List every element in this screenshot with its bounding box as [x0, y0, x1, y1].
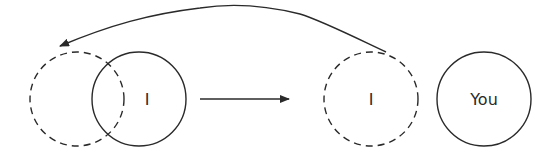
self-circle [92, 52, 186, 146]
former-self-dashed-circle [30, 52, 124, 146]
other-label: You [469, 90, 498, 109]
diagram-canvas: I I You [0, 0, 556, 163]
projected-self-label: I [369, 90, 374, 109]
diagram-svg: I I You [0, 0, 556, 163]
self-label: I [145, 90, 150, 109]
return-curved-arrow [60, 6, 386, 52]
